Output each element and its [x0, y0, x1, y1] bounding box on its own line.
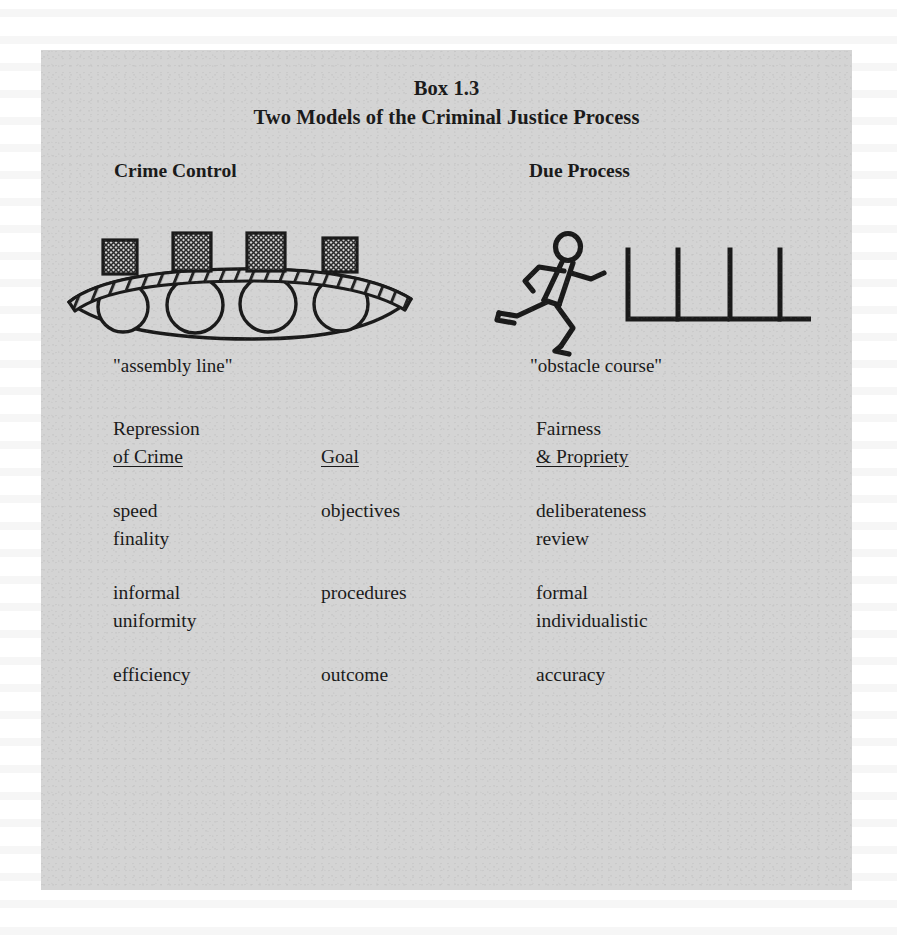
table-row: speed objectives deliberateness — [41, 497, 852, 525]
heading-due-process: Due Process — [529, 160, 630, 182]
table-row: efficiency outcome accuracy — [41, 661, 852, 689]
cell-left: efficiency — [113, 661, 191, 689]
comparison-table: Repression Fairness of Crime Goal & Prop… — [41, 415, 852, 689]
cell-middle: objectives — [321, 497, 400, 525]
cell-right: accuracy — [536, 661, 605, 689]
hurdle-group — [628, 250, 811, 319]
caption-obstacle-course: "obstacle course" — [530, 355, 662, 377]
cell-middle: procedures — [321, 579, 407, 607]
assembly-line-icon — [61, 225, 421, 364]
header-left-line1: Repression — [113, 415, 200, 443]
table-row: informal procedures formal — [41, 579, 852, 607]
box-number: Box 1.3 — [41, 74, 852, 103]
header-left-line2: of Crime — [113, 443, 183, 471]
running-figure-icon — [497, 234, 604, 355]
cell-left: uniformity — [113, 607, 196, 635]
figure-title-block: Box 1.3 Two Models of the Criminal Justi… — [41, 74, 852, 132]
table-header-row-2: of Crime Goal & Propriety — [41, 443, 852, 471]
obstacle-course-icon — [481, 227, 811, 366]
caption-assembly-line: "assembly line" — [113, 355, 232, 377]
figure-box: Box 1.3 Two Models of the Criminal Justi… — [41, 50, 852, 890]
cell-middle: outcome — [321, 661, 388, 689]
model-headings: Crime Control Due Process — [41, 160, 852, 190]
cell-right: formal — [536, 579, 588, 607]
cell-left: speed — [113, 497, 157, 525]
table-row: uniformity individualistic — [41, 607, 852, 635]
figure-title: Two Models of the Criminal Justice Proce… — [41, 103, 852, 132]
illustration-captions: "assembly line" "obstacle course" — [41, 355, 852, 383]
header-right-line2: & Propriety — [536, 443, 629, 471]
table-row: finality review — [41, 525, 852, 553]
header-middle-line2: Goal — [321, 443, 359, 471]
table-header-row-1: Repression Fairness — [41, 415, 852, 443]
header-right-line1: Fairness — [536, 415, 601, 443]
illustrations-row — [41, 225, 852, 360]
cell-right: review — [536, 525, 589, 553]
heading-crime-control: Crime Control — [114, 160, 237, 182]
cell-left: informal — [113, 579, 180, 607]
cell-right: individualistic — [536, 607, 648, 635]
cell-right: deliberateness — [536, 497, 646, 525]
cell-left: finality — [113, 525, 169, 553]
